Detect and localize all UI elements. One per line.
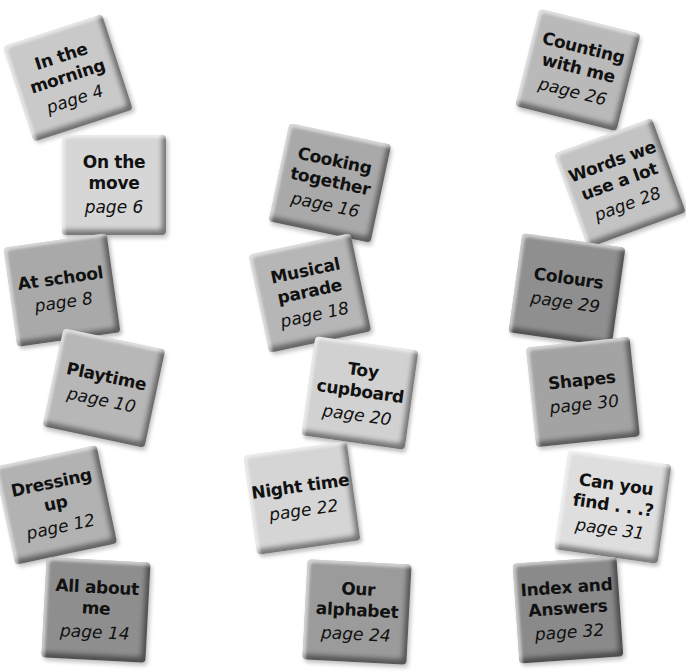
contents-tile[interactable]: Dressing uppage 12: [0, 445, 117, 564]
tile-title: Index and Answers: [514, 573, 621, 622]
contents-tile[interactable]: Can you find . . .?page 31: [555, 450, 672, 564]
contents-tile[interactable]: Musical paradepage 18: [249, 233, 372, 352]
tile-title: Our alphabet: [305, 576, 411, 623]
tile-page-number: page 24: [321, 621, 392, 647]
contents-tile[interactable]: On the movepage 6: [62, 135, 166, 235]
contents-tile[interactable]: All about mepage 14: [41, 557, 150, 662]
contents-tile[interactable]: Playtimepage 10: [43, 328, 166, 447]
tile-title: All about me: [44, 574, 150, 621]
contents-tile[interactable]: Colourspage 29: [509, 233, 626, 347]
contents-tile[interactable]: At schoolpage 8: [4, 233, 121, 347]
tile-page-number: page 32: [534, 619, 605, 646]
tile-title: On the move: [62, 152, 166, 194]
contents-tile[interactable]: Shapespage 30: [526, 337, 640, 447]
tile-page-number: page 6: [85, 196, 144, 218]
contents-tile[interactable]: Our alphabetpage 24: [302, 559, 411, 664]
contents-tile[interactable]: Night timepage 22: [244, 441, 361, 555]
contents-tile[interactable]: Index and Answerspage 32: [513, 556, 624, 663]
tile-page-number: page 30: [548, 389, 619, 418]
contents-tile[interactable]: In the morningpage 4: [3, 14, 133, 141]
contents-tile[interactable]: Words we use a lotpage 28: [554, 118, 686, 248]
contents-tile[interactable]: Cooking togetherpage 16: [269, 123, 392, 242]
contents-tile[interactable]: Toy cupboardpage 20: [302, 336, 419, 450]
contents-tile[interactable]: Counting with mepage 26: [515, 9, 640, 131]
tile-page-number: page 14: [60, 619, 131, 645]
